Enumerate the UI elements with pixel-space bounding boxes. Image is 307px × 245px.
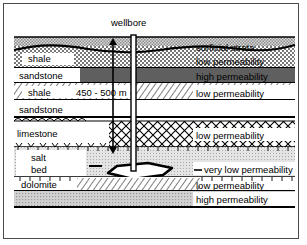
label-low-perm-dolomite: low permeability — [196, 180, 264, 191]
label-low-perm-shale-upper: low permeability — [196, 56, 264, 67]
geological-cross-section: shale sandstone shale sandstone limeston… — [0, 0, 307, 245]
label-limestone: limestone — [17, 128, 58, 139]
label-salt: salt — [31, 152, 46, 163]
label-very-low-perm-salt: very low permeability — [204, 164, 293, 175]
dolomite-hatch-body — [77, 178, 200, 190]
label-bed: bed — [31, 164, 47, 175]
label-wellbore: wellbore — [110, 17, 146, 28]
label-shale-upper: shale — [28, 53, 51, 64]
label-sandstone-lower: sandstone — [19, 104, 63, 115]
label-dolomite: dolomite — [21, 179, 57, 190]
label-sandstone-upper: sandstone — [19, 70, 63, 81]
cross-section-svg: shale sandstone shale sandstone limeston… — [0, 0, 307, 245]
label-low-perm-limestone: low permeability — [196, 130, 264, 141]
wellbore[interactable] — [131, 35, 136, 171]
wellbore-casing[interactable] — [131, 35, 136, 171]
label-high-perm-sandstone: high permeability — [196, 71, 268, 82]
label-low-perm-shale-lower: low permeability — [196, 88, 264, 99]
label-shale-lower: shale — [28, 87, 51, 98]
label-high-perm-aquifer: high permeability — [196, 194, 268, 205]
salt-bed-label-plaque — [16, 150, 86, 176]
label-surficial-strata: surficial strata — [196, 42, 255, 53]
label-depth-range: 450 - 500 m — [76, 87, 127, 98]
